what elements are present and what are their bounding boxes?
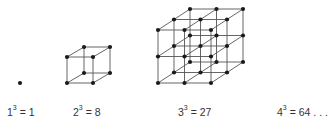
lattice-point — [241, 33, 245, 37]
lattice-edge — [158, 46, 174, 57]
lattice-point — [209, 28, 213, 32]
lattice-edge — [174, 9, 190, 20]
base: 4 — [277, 106, 283, 118]
lattice-edge — [185, 20, 201, 31]
lattice-point — [65, 81, 69, 85]
lattice-point — [214, 60, 218, 64]
lattice-edge — [174, 36, 190, 47]
lattice-point — [209, 54, 213, 58]
lattice-point — [214, 7, 218, 11]
lattice-point — [156, 28, 160, 32]
lattice-point — [91, 55, 95, 59]
lattice-point — [188, 33, 192, 37]
lattice-edge — [67, 47, 84, 57]
equals-value: = 1 — [17, 106, 35, 118]
lattice-point — [172, 17, 176, 21]
lattice-edge — [201, 9, 217, 20]
exponent: 3 — [13, 104, 17, 111]
lattice-edge — [211, 46, 227, 57]
label-1-cubed: 13 = 1 — [7, 105, 35, 118]
lattice-edge — [158, 20, 174, 31]
exponent: 3 — [79, 104, 83, 111]
lattice-point — [172, 44, 176, 48]
label-3-cubed: 33 = 27 — [178, 105, 211, 118]
cube-2x2x2-lattice — [65, 45, 112, 85]
label-2-cubed: 23 = 8 — [73, 105, 101, 118]
lattice-point — [214, 33, 218, 37]
lattice-point — [156, 54, 160, 58]
lattice-point — [18, 81, 22, 85]
lattice-point — [225, 44, 229, 48]
lattice-edge — [211, 73, 227, 84]
lattice-point — [209, 81, 213, 85]
lattice-point — [182, 81, 186, 85]
lattice-edge — [93, 47, 110, 57]
base: 2 — [73, 106, 79, 118]
lattice-point — [198, 44, 202, 48]
lattice-edge — [185, 73, 201, 84]
lattice-edge — [227, 9, 243, 20]
exponent: 3 — [283, 104, 287, 111]
label-4-cubed: 43 = 64 . . . — [277, 105, 328, 118]
lattice-point — [91, 81, 95, 85]
lattice-point — [182, 28, 186, 32]
lattice-edge — [201, 62, 217, 73]
lattice-point — [172, 70, 176, 74]
cube-3x3x3-lattice — [156, 7, 245, 85]
equals-value: = 27 — [188, 106, 212, 118]
base: 3 — [178, 106, 184, 118]
exponent: 3 — [184, 104, 188, 111]
lattice-point — [108, 45, 112, 49]
single-point-1-cubed — [18, 81, 22, 85]
lattice-point — [241, 60, 245, 64]
lattice-edge — [227, 36, 243, 47]
lattice-edge — [185, 46, 201, 57]
lattice-point — [82, 45, 86, 49]
lattice-edge — [227, 62, 243, 73]
lattice-edge — [174, 62, 190, 73]
equals-value: = 8 — [83, 106, 101, 118]
lattice-point — [225, 70, 229, 74]
lattice-point — [188, 7, 192, 11]
equals-value: = 64 . . . — [287, 106, 328, 118]
lattice-point — [82, 71, 86, 75]
lattice-edge — [201, 36, 217, 47]
lattice-point — [188, 60, 192, 64]
lattice-point — [108, 71, 112, 75]
lattice-point — [65, 55, 69, 59]
lattice-point — [198, 70, 202, 74]
lattice-edge — [158, 73, 174, 84]
lattice-point — [182, 54, 186, 58]
lattice-point — [198, 17, 202, 21]
lattice-edge — [211, 20, 227, 31]
base: 1 — [7, 106, 13, 118]
lattice-point — [241, 7, 245, 11]
lattice-point — [225, 17, 229, 21]
lattice-edge — [93, 73, 110, 83]
lattice-point — [156, 81, 160, 85]
lattice-edge — [67, 73, 84, 83]
